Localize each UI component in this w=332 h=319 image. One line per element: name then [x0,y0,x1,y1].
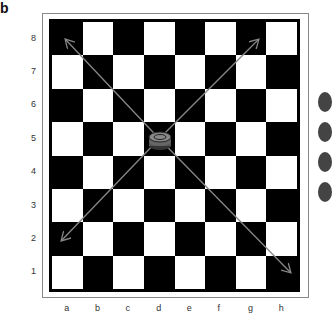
side-piece-icon [318,122,332,142]
arrow-a8 [66,40,159,139]
arrow-a2 [62,139,159,240]
arrow-h1 [159,139,290,272]
side-piece-icon [318,92,332,112]
side-piece-icon [318,152,332,172]
side-piece-icon [318,182,332,202]
arrow-h8 [159,40,258,139]
checker-piece-icon[interactable] [149,132,171,150]
